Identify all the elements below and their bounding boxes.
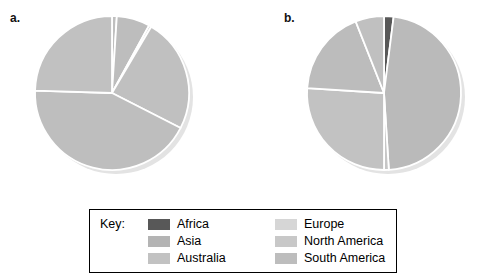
pie-b-svg — [304, 13, 472, 181]
pie-chart-b — [304, 13, 472, 181]
legend-swatch-australia — [148, 253, 170, 264]
legend-label-europe: Europe — [304, 218, 344, 231]
legend-item-asia: Asia — [148, 233, 226, 250]
legend-item-africa: Africa — [148, 216, 226, 233]
legend-box: Key: Africa Asia Australia Europe N — [89, 209, 397, 273]
legend-swatch-africa — [148, 219, 170, 230]
panel-label-b: b. — [284, 11, 295, 25]
pie-chart-a — [32, 13, 200, 181]
legend-item-north-america: North America — [275, 233, 385, 250]
chart-panel-b: b. — [242, 0, 484, 205]
legend-label-asia: Asia — [177, 235, 201, 248]
pie-slice-europe — [307, 88, 384, 170]
legend-item-europe: Europe — [275, 216, 385, 233]
legend-label-south-america: South America — [304, 252, 385, 265]
legend-swatch-europe — [275, 219, 297, 230]
legend-column-right: Europe North America South America — [275, 216, 385, 267]
pie-a-svg — [32, 13, 200, 181]
chart-panel-a: a. — [0, 0, 242, 205]
pie-slice-asia — [384, 17, 461, 170]
legend-swatch-north-america — [275, 236, 297, 247]
pie-chart-figure: a. b. Key: Africa Asia Australia — [0, 0, 484, 273]
legend-item-australia: Australia — [148, 250, 226, 267]
legend-label-north-america: North America — [304, 235, 383, 248]
panel-label-a: a. — [10, 11, 20, 25]
legend-label-australia: Australia — [177, 252, 226, 265]
legend-label-africa: Africa — [177, 218, 209, 231]
legend-swatch-asia — [148, 236, 170, 247]
legend-swatch-south-america — [275, 253, 297, 264]
legend-column-left: Africa Asia Australia — [148, 216, 226, 267]
legend-item-south-america: South America — [275, 250, 385, 267]
pie-slice-south-america — [35, 16, 112, 93]
legend-key-label: Key: — [100, 217, 125, 231]
